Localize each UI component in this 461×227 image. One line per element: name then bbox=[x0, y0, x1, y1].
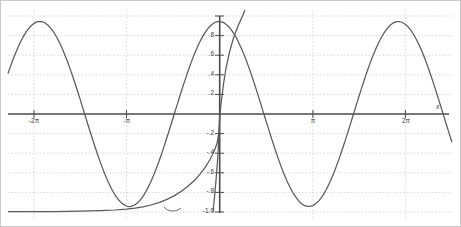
series-flat-then-rising-curve bbox=[8, 114, 220, 212]
y-tick-label-0.8: .8 bbox=[189, 32, 214, 39]
x-tick-label-pi: π bbox=[299, 118, 327, 125]
y-tick-label--1.0: -1.0 bbox=[186, 208, 214, 215]
y-tick-label-0.2: .2 bbox=[189, 90, 214, 97]
plot-canvas bbox=[0, 0, 461, 227]
y-tick-label-0.4: .4 bbox=[189, 71, 214, 78]
y-tick-label--0.2: -.2 bbox=[189, 130, 214, 137]
series-steep-rising-curve bbox=[213, 10, 245, 212]
y-tick-label--0.8: -.8 bbox=[189, 188, 214, 195]
x-axis-label: x bbox=[436, 103, 440, 110]
y-tick-label--0.6: -.6 bbox=[189, 169, 214, 176]
series-local-minimum-hook bbox=[164, 207, 181, 211]
y-tick-label--0.4: -.4 bbox=[189, 149, 214, 156]
chart-figure: .8 .6 .4 .2 -.2 -.4 -.6 -.8 -1.0 -2π -π … bbox=[0, 0, 461, 227]
x-tick-label-2pi: 2π bbox=[392, 118, 420, 125]
x-tick-label--pi: -π bbox=[113, 118, 141, 125]
y-tick-label-0.6: .6 bbox=[189, 51, 214, 58]
x-tick-label--2pi: -2π bbox=[20, 118, 48, 125]
